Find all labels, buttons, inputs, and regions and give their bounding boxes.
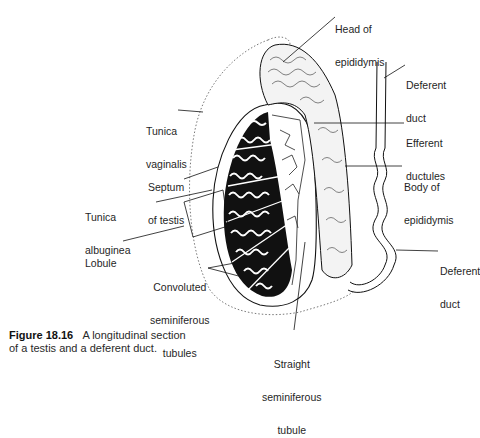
- deferent-duct: [350, 62, 387, 285]
- label-line: Deferent: [440, 266, 480, 277]
- caption-line-2: of a testis and a deferent duct.: [9, 342, 186, 355]
- label-straight-seminiferous-tubule: Straight seminiferous tubule: [262, 337, 322, 438]
- label-line: Septum: [148, 182, 184, 193]
- label-septum-of-testis: Septum of testis: [148, 160, 184, 237]
- label-line: Head of: [335, 24, 385, 35]
- label-line: Convoluted: [150, 282, 210, 293]
- label-line: of testis: [148, 215, 184, 226]
- label-head-of-epididymis: Head of epididymis: [335, 2, 385, 79]
- tunica-vaginalis-top: [268, 37, 290, 44]
- label-line: Deferent: [406, 80, 446, 91]
- label-line: seminiferous: [262, 392, 322, 403]
- deferent-duct-inner: [348, 62, 396, 292]
- label-line: Body of: [404, 182, 454, 193]
- label-deferent-duct-bottom: Deferent duct: [440, 244, 480, 321]
- caption-text-1: A longitudinal section: [82, 329, 185, 341]
- label-line: Tunica: [146, 126, 187, 137]
- figure-number: Figure 18.16: [9, 329, 73, 341]
- label-line: Lobule: [85, 258, 117, 269]
- label-line: epididymis: [335, 57, 385, 68]
- label-line: Tunica: [85, 212, 131, 223]
- label-line: epididymis: [404, 215, 454, 226]
- label-line: tubule: [262, 425, 322, 436]
- label-body-of-epididymis: Body of epididymis: [404, 160, 454, 237]
- caption-line-1: Figure 18.16 A longitudinal section: [9, 329, 186, 342]
- label-line: Straight: [262, 359, 322, 370]
- lobules-mass: [224, 112, 292, 297]
- figure-caption: Figure 18.16 A longitudinal section of a…: [9, 329, 186, 355]
- label-line: duct: [440, 299, 480, 310]
- label-line: seminiferous: [150, 315, 210, 326]
- label-lobule: Lobule: [85, 236, 117, 280]
- label-line: Efferent: [406, 138, 445, 149]
